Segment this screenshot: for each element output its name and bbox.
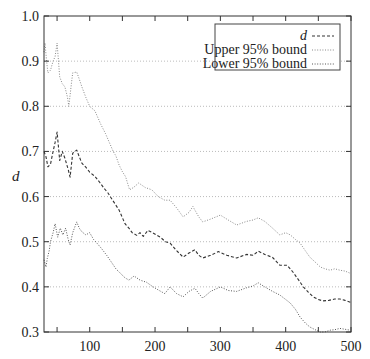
series-line-lower-95-bound xyxy=(44,222,350,332)
y-tick-label: 0.8 xyxy=(22,99,40,114)
series-line-d xyxy=(44,132,350,302)
legend: dUpper 95% boundLower 95% bound xyxy=(203,24,340,71)
line-chart: 100200300400500 0.30.40.50.60.70.80.91.0… xyxy=(0,0,370,359)
y-tick-label: 0.4 xyxy=(22,280,40,295)
x-tick-label: 300 xyxy=(210,339,231,354)
x-tick-labels: 100200300400500 xyxy=(79,339,361,354)
y-tick-label: 0.7 xyxy=(22,144,40,159)
y-tick-label: 0.3 xyxy=(22,325,40,340)
legend-label: Lower 95% bound xyxy=(203,56,307,71)
y-tick-label: 0.6 xyxy=(22,190,40,205)
x-tick-label: 100 xyxy=(79,339,100,354)
series-layer xyxy=(44,43,350,332)
legend-label: d xyxy=(300,28,308,43)
y-tick-label: 1.0 xyxy=(22,9,40,24)
y-tick-labels: 0.30.40.50.60.70.80.91.0 xyxy=(22,9,40,340)
y-tick-label: 0.9 xyxy=(22,54,40,69)
y-tick-label: 0.5 xyxy=(22,235,40,250)
x-tick-label: 400 xyxy=(275,339,296,354)
legend-label: Upper 95% bound xyxy=(204,42,307,57)
y-axis-label: d xyxy=(12,168,20,184)
x-tick-label: 500 xyxy=(341,339,362,354)
series-line-upper-95-bound xyxy=(44,43,350,273)
x-tick-label: 200 xyxy=(145,339,166,354)
